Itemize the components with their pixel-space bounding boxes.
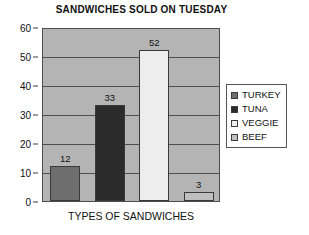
y-axis-tick-label: 50 — [20, 52, 31, 63]
y-axis-tick-mark — [33, 202, 38, 203]
bar-veggie — [139, 50, 169, 201]
bar-tuna — [95, 105, 125, 201]
legend-label: BEEF — [242, 132, 267, 142]
bar-beef — [184, 192, 214, 201]
y-axis: 0102030405060 — [0, 28, 38, 202]
legend-label: VEGGIE — [242, 118, 278, 128]
y-axis-tick-label: 10 — [20, 168, 31, 179]
bar-value-label-turkey: 12 — [60, 153, 71, 164]
legend-label: TUNA — [242, 104, 268, 114]
y-axis-tick-mark — [33, 144, 38, 145]
y-axis-tick-mark — [33, 115, 38, 116]
y-axis-tick-label: 60 — [20, 23, 31, 34]
chart-title: SANDWICHES SOLD ON TUESDAY — [0, 4, 283, 15]
y-axis-tick-label: 0 — [25, 197, 31, 208]
y-axis-tick-label: 40 — [20, 81, 31, 92]
bar-value-label-beef: 3 — [196, 179, 201, 190]
chart-legend: TURKEYTUNAVEGGIEBEEF — [226, 84, 287, 148]
legend-item-tuna: TUNA — [231, 102, 281, 116]
plot-area: 1233523 — [42, 28, 220, 202]
y-axis-tick-label: 30 — [20, 110, 31, 121]
legend-swatch-icon — [231, 92, 238, 99]
legend-item-beef: BEEF — [231, 130, 281, 144]
legend-label: TURKEY — [242, 90, 281, 100]
legend-swatch-icon — [231, 134, 238, 141]
y-axis-tick-mark — [33, 86, 38, 87]
bar-group-veggie: 52 — [132, 29, 177, 201]
legend-swatch-icon — [231, 120, 238, 127]
legend-item-veggie: VEGGIE — [231, 116, 281, 130]
legend-item-turkey: TURKEY — [231, 88, 281, 102]
x-axis-title: TYPES OF SANDWICHES — [20, 210, 242, 222]
y-axis-tick-mark — [33, 173, 38, 174]
bar-group-turkey: 12 — [43, 29, 88, 201]
bar-value-label-veggie: 52 — [149, 37, 160, 48]
y-axis-tick-mark — [33, 28, 38, 29]
bar-group-tuna: 33 — [88, 29, 133, 201]
y-axis-tick-label: 20 — [20, 139, 31, 150]
y-axis-tick-mark — [33, 57, 38, 58]
legend-swatch-icon — [231, 106, 238, 113]
bar-turkey — [50, 166, 80, 201]
bar-value-label-tuna: 33 — [104, 92, 115, 103]
bar-group-beef: 3 — [177, 29, 222, 201]
